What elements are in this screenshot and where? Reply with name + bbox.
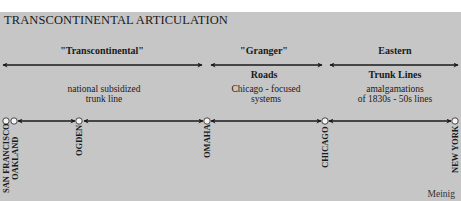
arrow-diagram — [0, 0, 461, 201]
city-label-omaha: OMAHA — [202, 124, 212, 158]
city-node-chicago — [322, 118, 328, 124]
city-label-new-york: NEW YORK — [450, 126, 460, 173]
city-label-chicago: CHICAGO — [320, 126, 330, 168]
city-node-oakland — [11, 118, 17, 124]
city-node-new-york — [452, 118, 458, 124]
city-node-ogden — [76, 118, 82, 124]
author-credit: Meinig — [428, 189, 455, 199]
city-label-oakland: OAKLAND — [10, 137, 20, 180]
city-label-ogden: OGDEN — [74, 125, 84, 156]
